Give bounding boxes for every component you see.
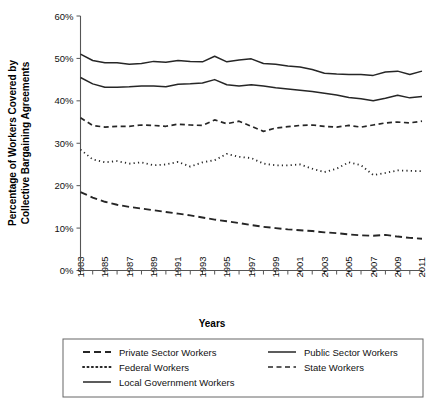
x-tick-label: 2007: [368, 256, 379, 277]
y-tick-label: 10%: [54, 223, 74, 234]
x-tick-label: 1995: [221, 256, 232, 277]
legend-label-public-sector-workers: Public Sector Workers: [304, 347, 398, 358]
y-tick-label: 20%: [54, 180, 74, 191]
legend-label-local-government-workers: Local Government Workers: [119, 377, 235, 388]
y-tick-label: 40%: [54, 95, 74, 106]
y-tick-label: 50%: [54, 53, 74, 64]
x-tick-label: 1993: [197, 256, 208, 277]
legend-label-private-sector-workers: Private Sector Workers: [119, 347, 217, 358]
legend-label-state-workers: State Workers: [304, 362, 364, 373]
y-tick-label: 60%: [54, 11, 74, 22]
x-tick-label: 1985: [99, 256, 110, 277]
x-tick-label: 2011: [416, 257, 427, 277]
x-axis-ticks: 1983198519871989199119931995199719992001…: [75, 256, 428, 277]
y-axis-title-line: Percentage of Workers Covered by: [7, 60, 18, 226]
chart-legend: Private Sector WorkersPublic Sector Work…: [63, 339, 423, 397]
x-tick-label: 1989: [148, 256, 159, 277]
x-tick-label: 1987: [124, 256, 135, 277]
y-tick-label: 0%: [60, 265, 74, 276]
x-tick-label: 2001: [294, 256, 305, 277]
legend-label-federal-workers: Federal Workers: [119, 362, 189, 373]
x-tick-label: 2003: [319, 256, 330, 277]
x-tick-label: 1999: [270, 256, 281, 277]
x-axis-title: Years: [199, 318, 226, 329]
collective-bargaining-line-chart: Percentage of Workers Covered byCollecti…: [0, 0, 435, 403]
x-tick-label: 2005: [343, 256, 354, 277]
x-tick-label: 2009: [392, 256, 403, 277]
y-tick-label: 30%: [54, 138, 74, 149]
x-tick-label: 1991: [172, 256, 183, 277]
y-axis-title-line: Collective Bargaining Agreements: [20, 61, 31, 224]
x-tick-label: 1997: [246, 256, 257, 277]
